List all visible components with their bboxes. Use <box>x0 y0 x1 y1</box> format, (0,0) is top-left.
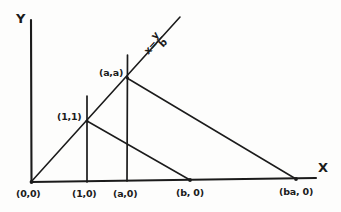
vertical-segment-at-a <box>127 55 128 181</box>
diagram-canvas: Y X x=yb (a,a) (1,1) (0,0) (1,0) (a,0) (… <box>0 0 341 212</box>
x-axis-label: X <box>318 161 328 174</box>
dot-a-point <box>126 77 129 80</box>
dot-ba <box>294 177 298 181</box>
dot-unit-point <box>86 120 89 123</box>
tick-label-1-0: (1,0) <box>72 189 97 199</box>
y-axis-label: Y <box>16 12 25 25</box>
x-axis-line <box>31 178 316 182</box>
tick-label-ba-0: (ba, 0) <box>279 187 313 197</box>
geometry-figure <box>0 0 341 212</box>
tick-label-b-0: (b, 0) <box>176 188 204 198</box>
dot-b <box>188 178 192 182</box>
segment-unit-to-b <box>87 121 190 180</box>
tick-label-a-0: (a,0) <box>113 189 137 199</box>
tick-label-origin: (0,0) <box>16 189 41 199</box>
dot-origin <box>30 180 34 184</box>
point-label-a-a: (a,a) <box>99 68 123 78</box>
point-label-1-1: (1,1) <box>57 112 82 122</box>
segment-a-to-ba <box>127 78 296 179</box>
y-axis-line <box>31 20 32 182</box>
